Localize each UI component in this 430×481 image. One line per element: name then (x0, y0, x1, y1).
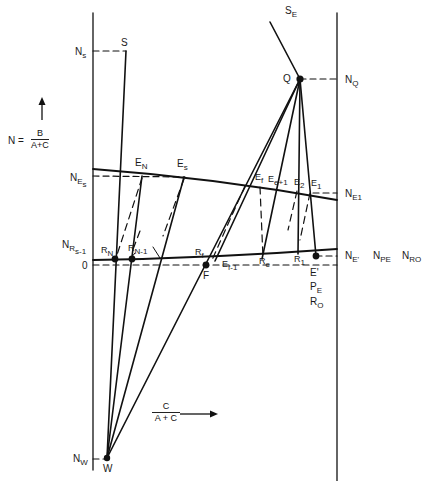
label-nw-sub: W (80, 458, 88, 467)
label-ne1-sub: E1 (352, 193, 362, 202)
label-nrs1-sub: Rs-1 (69, 244, 86, 253)
en-w-line (107, 176, 142, 458)
label-rn: RN (101, 246, 113, 258)
up-arrow-icon (39, 97, 46, 105)
label-en-main: E (135, 157, 142, 168)
tie-ee1-re (260, 187, 263, 258)
label-ns-sub: s (82, 51, 86, 60)
q-ef1-line (215, 79, 300, 261)
label-npe-subsub: E (386, 255, 391, 264)
se-q-line (270, 22, 300, 79)
label-ef1-sub: f-1 (228, 263, 237, 272)
label-f: F (203, 271, 209, 281)
label-se: SE (285, 6, 297, 19)
point-eprime (313, 253, 320, 260)
label-nw: NW (73, 454, 88, 467)
y-axis-denominator: A+C (31, 139, 49, 150)
label-rf: Rf (195, 248, 204, 260)
right-arrow-icon (210, 411, 218, 418)
label-ee1-sub: e+1 (274, 178, 288, 187)
label-nro-sub: RO (409, 255, 421, 264)
label-r1-sub: 1 (301, 258, 305, 267)
label-rn1-sub: N-1 (135, 247, 148, 256)
label-r1: R1 (294, 255, 305, 267)
label-ro-sub: O (317, 301, 323, 310)
label-nrs1: NRs-1 (62, 240, 86, 256)
label-rn-sub: N (108, 249, 114, 258)
label-nq: NQ (345, 75, 358, 88)
point-rn1 (129, 256, 136, 263)
label-nq-sub: Q (352, 79, 358, 88)
label-re: Re (259, 257, 270, 269)
label-nes: NEs (70, 173, 87, 189)
label-se-sub: E (292, 10, 297, 19)
label-ro: RO (310, 297, 323, 310)
label-pe-sub: E (317, 286, 322, 295)
x-axis-denominator: A + C (152, 412, 180, 423)
label-pe: PE (310, 282, 322, 295)
label-npe: NPE (373, 251, 391, 264)
label-en: EN (135, 158, 147, 171)
tie-ef-rf (212, 186, 245, 260)
tie-e1-r1 (300, 193, 310, 240)
label-ef-sub: f (261, 176, 263, 185)
tie-e2-r1 (288, 191, 297, 230)
point-q (296, 75, 303, 82)
label-e2-sub: 2 (300, 181, 304, 190)
label-zero: 0 (82, 261, 88, 271)
label-es-sub: s (184, 163, 188, 172)
label-eprime: E' (310, 268, 319, 278)
label-rf-sub: f (202, 251, 204, 260)
label-q: Q (283, 74, 291, 84)
label-pe-main: P (310, 281, 317, 292)
q-re-line (262, 79, 300, 259)
label-neprime-sub: E' (352, 255, 359, 264)
tie-tick (153, 247, 160, 258)
label-es: Es (177, 159, 188, 172)
label-e1-sub: 1 (317, 182, 321, 191)
w-q-line (107, 79, 300, 458)
point-f (203, 262, 210, 269)
x-axis-numerator: C (152, 402, 180, 412)
label-npe-sub: PE (380, 255, 391, 264)
label-s: S (121, 38, 128, 48)
y-axis-fraction: B A+C (31, 129, 49, 150)
label-ef1: Ef-1 (222, 260, 237, 272)
label-re-sub: e (266, 260, 270, 269)
label-ns: Ns (75, 47, 86, 60)
label-ef: Ef (255, 173, 263, 185)
label-rn1: RN-1 (128, 244, 147, 256)
label-es-main: E (177, 158, 184, 169)
label-nrs1-subsub: s-1 (75, 247, 86, 256)
label-neprime: NE' (345, 251, 359, 264)
label-w: W (103, 464, 112, 474)
label-ne1: NE1 (345, 189, 362, 202)
label-e1: E1 (311, 179, 321, 191)
label-nes-subsub: s (83, 180, 87, 189)
q-r1-line (298, 79, 300, 254)
y-axis-label-prefix: N = (8, 136, 24, 146)
label-e2: E2 (294, 178, 304, 190)
label-ne1-subsub: 1 (358, 193, 362, 202)
y-axis-numerator: B (31, 129, 49, 139)
label-nes-sub: Es (77, 177, 86, 186)
point-w (104, 455, 110, 461)
label-ee1: Ee+1 (268, 175, 288, 187)
label-nro: NRO (402, 251, 421, 264)
x-axis-fraction: C A + C (152, 402, 180, 423)
label-en-sub: N (142, 162, 148, 171)
label-se-main: S (285, 5, 292, 16)
